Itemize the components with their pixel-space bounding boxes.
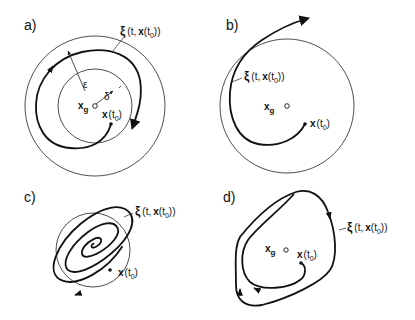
equilibrium-point (285, 104, 290, 109)
panel-c-label: c) (24, 189, 36, 205)
panel-c: c) ξ(t,x(t0)) x(t0) (24, 189, 175, 295)
panel-b-label: b) (226, 17, 238, 33)
panel-b: b) ξ(t,x(t0)) xg x(t0) (220, 17, 354, 173)
trajectory-label: ξ(t,x(t0)) (120, 24, 160, 39)
direction-arrow-icon (329, 214, 330, 219)
panel-d: d) ξ(t,x(t0)) xg x(t0) (223, 189, 387, 306)
panel-a: a) ε δ xg x(t0) ξ(t,x(t0)) (24, 17, 165, 176)
initial-point (299, 261, 303, 265)
trajectory-label: ξ(t,x(t0)) (135, 204, 175, 219)
initial-state-label: x(t0) (310, 118, 330, 131)
trajectory-label: ξ(t,x(t0)) (244, 69, 284, 84)
initial-point (109, 122, 113, 126)
panel-d-label: d) (223, 189, 235, 205)
label-leader (112, 37, 124, 52)
initial-state-label: x(t0) (297, 249, 317, 262)
initial-point (108, 268, 112, 272)
label-leader (232, 78, 242, 82)
initial-state-label: x(t0) (102, 109, 122, 122)
trajectory-d (242, 194, 305, 288)
initial-point (303, 122, 307, 126)
trajectory-label: ξ(t,x(t0)) (347, 220, 387, 235)
stability-diagram: a) ε δ xg x(t0) ξ(t,x(t0)) b) ξ(t,x(t0)) (0, 0, 415, 320)
epsilon-label: ε (83, 79, 88, 90)
xg-label: xg (264, 101, 275, 115)
initial-state-label: x(t0) (118, 267, 138, 280)
direction-arrow-icon (75, 294, 78, 295)
delta-label: δ (104, 91, 110, 102)
panel-a-label: a) (24, 17, 36, 33)
xg-label: xg (265, 243, 276, 257)
xg-label: xg (78, 100, 89, 114)
equilibrium-point (93, 104, 98, 109)
label-leader (339, 228, 346, 230)
direction-arrow-icon (254, 288, 258, 290)
equilibrium-point (284, 248, 288, 252)
trajectory-a (36, 50, 141, 148)
